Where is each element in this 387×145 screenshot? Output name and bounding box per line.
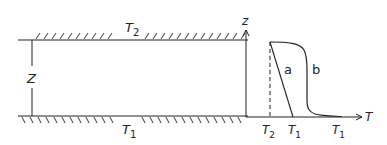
z-axis-label: z: [241, 14, 249, 28]
t-axis-label: T: [365, 110, 374, 124]
height-label: Z: [26, 71, 37, 86]
bottom-wall-label: T1: [122, 122, 136, 140]
tick-t2: T2: [262, 123, 275, 140]
curve-a-label: a: [284, 62, 292, 77]
curve-a: [270, 42, 293, 117]
bottom-wall: [18, 116, 248, 123]
top-wall-label: T2: [125, 20, 139, 38]
tick-t1-a: T1: [288, 123, 301, 140]
curve-b-label: b: [312, 62, 320, 77]
curve-b: [270, 42, 342, 117]
convection-diagram: T2 T1 Z z T a b: [0, 0, 387, 145]
tick-t1-b: T1: [332, 123, 345, 140]
